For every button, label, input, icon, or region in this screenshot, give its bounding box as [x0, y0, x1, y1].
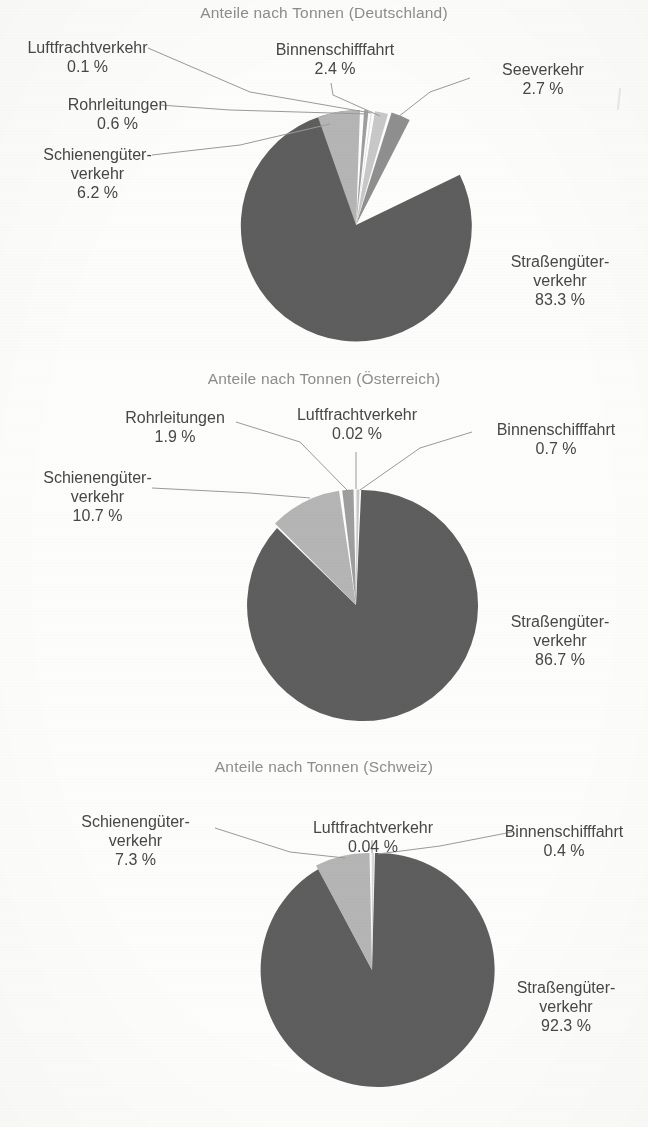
slice-road — [261, 853, 495, 1087]
label-pct: 0.6 % — [25, 114, 210, 133]
label-name-line2: verkehr — [480, 271, 640, 290]
label-rohrleitungen-at: Rohrleitungen 1.9 % — [95, 408, 255, 446]
pie-chart-oesterreich: Anteile nach Tonnen (Österreich) Rohrle — [0, 360, 648, 740]
label-pct: 86.7 % — [480, 650, 640, 669]
label-name-line2: verkehr — [486, 997, 646, 1016]
label-name-line1: Straßengüter- — [517, 979, 616, 996]
label-name-line1: Schienengüter- — [43, 146, 152, 163]
label-pct: 6.2 % — [10, 183, 185, 202]
label-pct: 83.3 % — [480, 290, 640, 309]
label-binnenschifffahrt-ch: Binnenschifffahrt 0.4 % — [478, 822, 648, 860]
label-name: Luftfrachtverkehr — [27, 39, 147, 56]
label-name-line1: Straßengüter- — [511, 613, 610, 630]
label-schienengueterverkehr-de: Schienengüter- verkehr 6.2 % — [10, 145, 185, 202]
label-luftfrachtverkehr-de: Luftfrachtverkehr 0.1 % — [0, 38, 175, 76]
label-pct: 0.4 % — [478, 841, 648, 860]
label-pct: 0.1 % — [0, 57, 175, 76]
label-pct: 0.7 % — [466, 439, 646, 458]
label-name-line2: verkehr — [480, 631, 640, 650]
label-pct: 92.3 % — [486, 1016, 646, 1035]
label-name-line1: Straßengüter- — [511, 253, 610, 270]
label-name: Rohrleitungen — [68, 96, 168, 113]
label-luftfrachtverkehr-ch: Luftfrachtverkehr 0.04 % — [288, 818, 458, 856]
pie-chart-schweiz: Anteile nach Tonnen (Schweiz) Schienengü… — [0, 740, 648, 1127]
label-name: Luftfrachtverkehr — [313, 819, 433, 836]
pie-slices-deutschland — [241, 110, 472, 342]
label-luftfrachtverkehr-at: Luftfrachtverkehr 0.02 % — [272, 405, 442, 443]
label-name: Luftfrachtverkehr — [297, 406, 417, 423]
label-name-line1: Schienengüter- — [43, 469, 152, 486]
label-binnenschifffahrt-at: Binnenschifffahrt 0.7 % — [466, 420, 646, 458]
label-schienengueterverkehr-at: Schienengüter- verkehr 10.7 % — [10, 468, 185, 525]
label-strassengueterverkehr-de: Straßengüter- verkehr 83.3 % — [480, 252, 640, 309]
label-name-line2: verkehr — [10, 487, 185, 506]
pie-graphic-schweiz — [0, 740, 648, 1127]
label-name: Rohrleitungen — [125, 409, 225, 426]
label-schienengueterverkehr-ch: Schienengüter- verkehr 7.3 % — [48, 812, 223, 869]
label-binnenschifffahrt-de: Binnenschifffahrt 2.4 % — [245, 40, 425, 78]
label-pct: 7.3 % — [48, 850, 223, 869]
label-pct: 1.9 % — [95, 427, 255, 446]
pie-slices-oesterreich — [247, 489, 478, 721]
label-name: Seeverkehr — [502, 61, 584, 78]
label-pct: 0.04 % — [288, 837, 458, 856]
label-pct: 2.7 % — [468, 79, 618, 98]
label-seeverkehr-de: Seeverkehr 2.7 % — [468, 60, 618, 98]
label-pct: 2.4 % — [245, 59, 425, 78]
label-name-line2: verkehr — [48, 831, 223, 850]
label-pct: 10.7 % — [10, 506, 185, 525]
label-name-line1: Schienengüter- — [81, 813, 190, 830]
label-name: Binnenschifffahrt — [505, 823, 624, 840]
label-strassengueterverkehr-ch: Straßengüter- verkehr 92.3 % — [486, 978, 646, 1035]
pie-slices-schweiz — [261, 853, 495, 1087]
pie-chart-deutschland: Anteile nach Tonnen (Deutschland) — [0, 0, 648, 360]
label-pct: 0.02 % — [272, 424, 442, 443]
label-rohrleitungen-de: Rohrleitungen 0.6 % — [25, 95, 210, 133]
label-name: Binnenschifffahrt — [497, 421, 616, 438]
label-name-line2: verkehr — [10, 164, 185, 183]
label-strassengueterverkehr-at: Straßengüter- verkehr 86.7 % — [480, 612, 640, 669]
label-name: Binnenschifffahrt — [276, 41, 395, 58]
